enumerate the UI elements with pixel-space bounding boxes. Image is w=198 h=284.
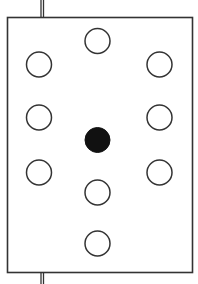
circle-group (27, 29, 173, 257)
filled-circle-center (85, 128, 110, 153)
hollow-circle-middle-left (27, 105, 52, 130)
hollow-circle-bottom-center (85, 231, 110, 256)
hollow-circle-top-center (85, 29, 110, 54)
connector-lines (41, 0, 44, 284)
diagram-canvas (0, 0, 198, 284)
hollow-circle-lower-right (147, 160, 172, 185)
hollow-circle-middle-right (147, 105, 172, 130)
hollow-circle-lower-left (27, 160, 52, 185)
top-stub-connector (41, 0, 44, 18)
bottom-stub-connector (41, 273, 44, 284)
hollow-circle-lower-center (85, 180, 110, 205)
hollow-circle-upper-left (27, 52, 52, 77)
hollow-circle-upper-right (147, 52, 172, 77)
